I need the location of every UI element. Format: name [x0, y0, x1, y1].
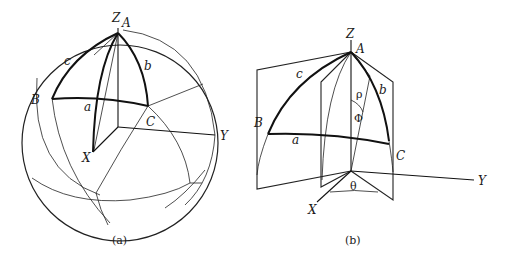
label-c-vertex: C — [396, 149, 405, 163]
great-circle-6 — [32, 178, 190, 201]
label-c-vertex: C — [146, 115, 155, 129]
y-axis — [351, 171, 474, 180]
label-b-side: b — [144, 59, 152, 73]
side-c-arc — [52, 33, 118, 99]
phi-arc — [351, 100, 363, 112]
label-z: Z — [111, 11, 121, 25]
caption-a: (a) — [112, 234, 127, 247]
label-x: X — [81, 151, 91, 165]
label-b-side: b — [379, 83, 387, 97]
label-x: X — [307, 203, 317, 217]
side-a-arc — [268, 134, 389, 144]
label-b-vertex: B — [30, 93, 40, 107]
plane-middle — [321, 52, 351, 187]
label-z: Z — [345, 27, 355, 41]
label-c-side: c — [296, 67, 303, 81]
arc-middle-thin — [322, 52, 351, 180]
great-circle-1 — [36, 78, 100, 195]
great-circle-2 — [52, 98, 110, 223]
label-a-side: a — [84, 100, 91, 114]
great-circle-3 — [148, 84, 203, 106]
plane-left — [257, 52, 351, 189]
panel-b: Z A c ρ b Φ B a C θ Y X (b) — [253, 27, 487, 247]
label-b-vertex: B — [253, 116, 263, 130]
label-rho: ρ — [356, 88, 362, 101]
spherical-triangle-figure: Z A c b B a C Y X (a) — [0, 0, 508, 263]
label-c-side: c — [64, 54, 71, 68]
sphere-rim-arc — [123, 30, 215, 205]
side-a-arc — [52, 98, 148, 106]
label-y: Y — [478, 174, 487, 188]
label-y: Y — [220, 129, 229, 143]
arc-left-thin — [257, 134, 268, 175]
x-axis — [93, 127, 118, 152]
label-phi: Φ — [354, 112, 363, 125]
label-a-side: a — [292, 133, 299, 147]
arc-right-thin — [389, 141, 393, 172]
label-theta: θ — [350, 180, 357, 193]
great-circle-5 — [96, 106, 148, 193]
label-a-vertex: A — [121, 16, 131, 30]
panel-a: Z A c b B a C Y X (a) — [22, 11, 229, 247]
caption-b: (b) — [345, 234, 361, 247]
sphere-outline — [22, 45, 218, 241]
label-a-vertex: A — [355, 42, 365, 56]
